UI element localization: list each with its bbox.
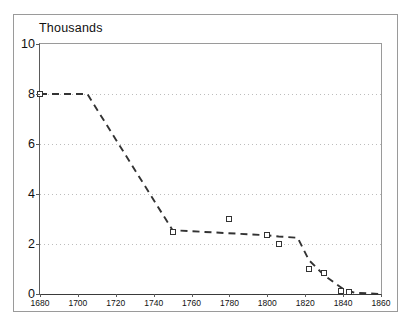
x-axis-tick-label: 1720 [106, 298, 125, 308]
x-axis-tick-mark [192, 294, 193, 297]
y-axis-tick-label: 10 [21, 37, 35, 51]
x-axis-tick-label: 1700 [68, 298, 87, 308]
chart-title: Thousands [39, 21, 103, 35]
y-axis-tick-mark [36, 194, 40, 195]
data-point-marker [276, 242, 281, 247]
data-point-marker [307, 267, 312, 272]
y-axis-tick-label: 8 [28, 87, 35, 101]
x-axis-tick-label: 1840 [334, 298, 353, 308]
data-point-marker [339, 289, 344, 294]
plot-area: 0246810168017001720174017601780180018201… [39, 43, 382, 295]
y-axis-tick-mark [36, 244, 40, 245]
x-axis-tick-mark [116, 294, 117, 297]
x-axis-tick-mark [154, 294, 155, 297]
chart-figure: Thousands 024681016801700172017401760178… [13, 14, 398, 312]
x-axis-tick-mark [78, 294, 79, 297]
x-axis-tick-label: 1780 [220, 298, 239, 308]
x-axis-tick-mark [40, 294, 41, 297]
x-axis-tick-label: 1800 [258, 298, 277, 308]
data-point-marker [265, 233, 270, 238]
x-axis-tick-mark [343, 294, 344, 297]
y-axis-tick-label: 2 [28, 237, 35, 251]
x-axis-tick-mark [267, 294, 268, 297]
y-axis-tick-mark [36, 44, 40, 45]
x-axis-tick-label: 1680 [31, 298, 50, 308]
series-line [40, 94, 381, 294]
data-point-marker [227, 217, 232, 222]
y-axis-tick-label: 4 [28, 187, 35, 201]
x-axis-tick-label: 1860 [372, 298, 391, 308]
x-axis-tick-mark [305, 294, 306, 297]
x-axis-tick-label: 1760 [182, 298, 201, 308]
y-axis-tick-mark [36, 94, 40, 95]
x-axis-tick-mark [229, 294, 230, 297]
data-series-layer [40, 44, 381, 294]
x-axis-tick-label: 1740 [144, 298, 163, 308]
x-axis-tick-label: 1820 [296, 298, 315, 308]
y-axis-tick-label: 6 [28, 137, 35, 151]
x-axis-tick-mark [381, 294, 382, 297]
data-point-marker [170, 229, 175, 234]
data-point-marker [346, 289, 351, 294]
y-axis-tick-mark [36, 144, 40, 145]
data-point-marker [322, 270, 327, 275]
